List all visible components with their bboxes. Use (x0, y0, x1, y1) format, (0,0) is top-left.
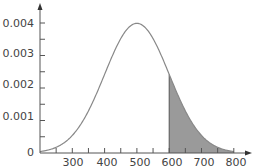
y-tick-label: 0.001 (3, 110, 35, 123)
shaded-tail-region (169, 74, 234, 153)
x-axis-tick-labels: 300 400 500 600 700 800 (63, 156, 247, 167)
y-tick-label: 0.002 (3, 78, 35, 91)
x-tick-label: 800 (226, 156, 247, 167)
x-tick-label: 600 (162, 156, 183, 167)
y-tick-label: 0 (27, 146, 34, 159)
axes (38, 3, 253, 156)
normal-distribution-chart: 300 400 500 600 700 800 0 0.001 0.002 0.… (0, 0, 257, 167)
y-tick-label: 0.003 (3, 47, 35, 60)
x-tick-label: 500 (130, 156, 151, 167)
y-axis-tick-labels: 0 0.001 0.002 0.003 0.004 (3, 17, 35, 159)
density-curve (40, 23, 234, 151)
x-tick-label: 300 (63, 156, 84, 167)
y-tick-label: 0.004 (3, 17, 35, 30)
x-tick-label: 400 (97, 156, 118, 167)
x-tick-label: 700 (194, 156, 215, 167)
